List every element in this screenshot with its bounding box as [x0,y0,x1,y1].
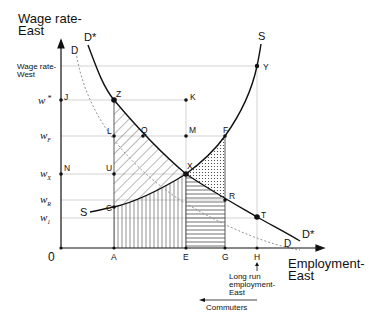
s-top-label: S [258,30,265,42]
point-J-label: J [64,92,68,102]
point-Q-label: Q [141,125,148,135]
d-top-label: D [71,45,78,56]
d-star-bottom-label: D* [302,228,315,240]
w-1-label: w1 [40,211,50,225]
origin-label: 0 [48,250,55,264]
tick-H-label: H [254,252,260,262]
long-run-line3: East [229,288,246,297]
tick-E-label: E [183,252,189,262]
w-R-label: wR [40,193,51,207]
w-F-label: wF [40,129,51,143]
point-F-label: F [223,125,228,135]
tick-A-label: A [111,252,117,262]
s-left-label: S [80,206,87,218]
point-U-label: U [106,163,112,173]
point-R-label: R [229,191,235,201]
commuters-arrow [199,298,257,302]
point-K-label: K [190,92,196,102]
point-L-label: L [107,126,112,136]
w-X-label: wX [40,167,51,181]
point-N-label: N [64,163,70,173]
d-bottom-label: D [284,238,291,249]
point-T-label: T [261,210,266,220]
point-C-label: C [106,203,112,213]
w-star-label: w* [38,94,51,106]
point-X-label: X [187,161,193,171]
d-star-top-label: D* [84,31,97,43]
long-run-arrow [255,262,259,271]
point-Y-label: Y [263,62,269,72]
x-tick-labels: A E G H [111,252,260,262]
y-axis-title-line2: East [18,23,44,38]
point-Z-label: Z [116,89,121,99]
x-axis-title-line2: East [288,268,314,283]
labor-market-diagram: Wage rate- East Employment- East 0 Wage … [0,0,370,321]
wage-rate-west-line2: West [17,70,36,79]
point-M-label: M [189,125,196,135]
tick-G-label: G [222,252,229,262]
commuters-label: Commuters [206,303,247,312]
